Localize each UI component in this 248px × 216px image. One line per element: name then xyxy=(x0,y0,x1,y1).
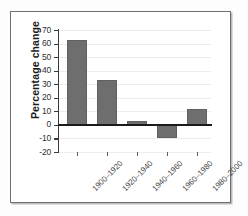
y-tick-mark xyxy=(54,44,58,45)
y-tick-mark xyxy=(54,111,58,112)
x-tick-mark xyxy=(197,152,198,156)
x-tick-label: 1960–1980 xyxy=(180,159,214,193)
y-tick-label: -10 xyxy=(39,134,51,143)
y-tick-mark xyxy=(54,84,58,85)
bar-1900-1920 xyxy=(67,40,87,125)
bar-1980-2000 xyxy=(187,109,207,125)
y-tick-label: -20 xyxy=(39,148,51,157)
gridline xyxy=(58,152,211,153)
bar-1960-1980 xyxy=(157,125,177,139)
bar-1920-1940 xyxy=(97,80,117,125)
chart-figure: Percentage change xyxy=(0,0,248,216)
y-tick-labels: 70 60 50 40 30 20 10 0 -10 -20 xyxy=(11,12,51,204)
y-tick-mark xyxy=(54,30,58,31)
y-tick-label: 30 xyxy=(42,80,51,89)
chart-frame: Percentage change xyxy=(10,11,231,203)
gridline xyxy=(58,138,211,139)
x-tick-label: 1940–1960 xyxy=(150,159,184,193)
y-tick-mark xyxy=(54,152,58,153)
y-tick-label: 0 xyxy=(46,120,51,129)
y-tick-label: 10 xyxy=(42,107,51,116)
y-tick-label: 20 xyxy=(42,93,51,102)
y-tick-label: 50 xyxy=(42,53,51,62)
x-tick-mark xyxy=(167,152,168,156)
x-tick-mark xyxy=(137,152,138,156)
y-tick-label: 40 xyxy=(42,66,51,75)
x-tick-mark xyxy=(107,152,108,156)
y-tick-label: 70 xyxy=(42,26,51,35)
y-tick-mark xyxy=(54,125,58,126)
x-tick-mark xyxy=(77,152,78,156)
x-tick-label: 1980–2000 xyxy=(210,159,244,193)
y-tick-mark xyxy=(54,57,58,58)
x-tick-label: 1900–1920 xyxy=(90,159,124,193)
y-axis-line xyxy=(58,29,59,153)
y-tick-mark xyxy=(54,98,58,99)
y-tick-mark xyxy=(54,71,58,72)
y-tick-label: 60 xyxy=(42,39,51,48)
gridline xyxy=(58,30,211,31)
y-tick-mark xyxy=(54,138,58,139)
zero-axis-line xyxy=(58,124,212,126)
x-tick-label: 1920–1940 xyxy=(120,159,154,193)
plot-area xyxy=(58,30,211,152)
